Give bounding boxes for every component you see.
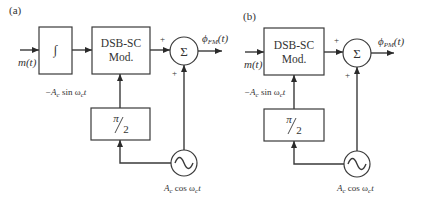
modulator-label-line1-a: DSB-SC [101, 37, 142, 49]
phase-den-a: 2 [123, 123, 129, 135]
phase-num-b: π [286, 113, 292, 125]
mod-carrier-label-b: −Ac sin ωct [244, 87, 286, 99]
sum-plus-top-a: + [160, 34, 165, 44]
modulator-label-line1-b: DSB-SC [274, 39, 315, 51]
phase-shifter-b [264, 109, 324, 141]
output-label-b: ϕPM(t) [378, 35, 405, 49]
sigma-symbol-a: Σ [180, 44, 188, 59]
dsb-sc-modulator-b [264, 28, 324, 75]
input-label-a: m(t) [18, 56, 37, 69]
sum-plus-bottom-b: + [345, 70, 350, 80]
mod-carrier-label-a: −Ac sin ωct [45, 87, 87, 99]
phase-num-a: π [113, 112, 119, 124]
sum-plus-bottom-a: + [172, 68, 177, 78]
panel-label-b: (b) [243, 10, 256, 23]
oscillator-label-a: Ac cos ωct [163, 183, 201, 195]
phase-shifter-a [91, 108, 150, 140]
phase-den-b: 2 [296, 124, 302, 136]
modulator-label-line2-a: Mod. [109, 51, 134, 63]
oscillator-label-b: Ac cos ωct [336, 183, 374, 195]
diagram-b: (b) m(t) DSB-SC Mod. + Σ + ϕPM(t) π 2 −A… [243, 10, 405, 195]
osc-to-phase-arrow-a [120, 140, 171, 163]
sum-plus-top-b: + [334, 35, 339, 45]
panel-label-a: (a) [9, 4, 22, 17]
diagram-a: (a) m(t) ∫ DSB-SC Mod. + Σ + ϕFM(t) π 2 [9, 4, 229, 195]
output-label-a: ϕFM(t) [202, 32, 229, 46]
input-label-b: m(t) [244, 58, 263, 71]
sigma-symbol-b: Σ [353, 46, 361, 61]
osc-to-phase-arrow-b [294, 141, 344, 164]
modulator-label-line2-b: Mod. [282, 53, 307, 65]
